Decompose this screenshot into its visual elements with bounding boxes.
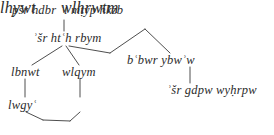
- node-asher1-text-pre: ʾšr ht: [33, 31, 61, 45]
- node-lwgy: lwgyʿ: [8, 99, 37, 112]
- edge-asher1-to-lbnwt: [32, 46, 62, 65]
- ayin-superscript-icon: ʿ: [32, 98, 36, 112]
- edge-wlhrwtm-to-lhywt: [70, 112, 80, 121]
- node-babur-text-post: bwr ybwʾw: [138, 53, 195, 67]
- node-lhywt: lhywt: [0, 0, 36, 16]
- edge-lhywt-baseline: [43, 120, 70, 121]
- tree-connector-lines: [0, 0, 274, 135]
- edge-babur-apex-right: [145, 29, 170, 53]
- edge-babur-apex-left: [110, 29, 145, 53]
- edge-asher1-to-babur-leg-left: [69, 46, 110, 53]
- node-lbnwt: lbnwt: [11, 66, 40, 79]
- node-asher-hithah-rabbim: ʾšr htʿh rbym: [33, 32, 102, 45]
- edge-asher1-to-wlqym: [66, 46, 79, 65]
- node-asher1-text-post: h rbym: [65, 31, 101, 45]
- diagram-canvas: pšr hdbr ʿl mṭyp hkzb ʾšr htʿh rbym bʿbw…: [0, 0, 274, 135]
- node-wlhrwtm: wlhrwtm: [61, 0, 118, 16]
- node-babur-yabou: bʿbwr ybwʾw: [127, 54, 195, 67]
- node-wlqym: wlqym: [62, 66, 96, 79]
- node-lwgy-text-pre: lwgy: [8, 98, 32, 112]
- edge-lwgy-to-lhywt: [26, 112, 43, 120]
- node-asher-gadfu-wayharpu: ʾšr gdpw wyḥrpw: [167, 84, 257, 97]
